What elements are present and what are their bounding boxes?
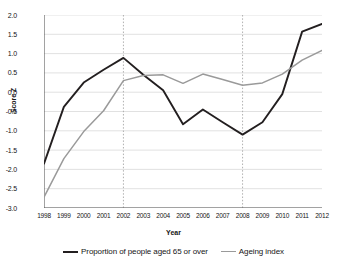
y-tick-label: 1.5 [8,31,17,38]
x-tick-label: 2006 [196,212,210,220]
legend-item-2[interactable]: Ageing index [221,247,284,256]
x-axis-tick-labels: 1998199920002001200220032004200520062007… [44,212,322,224]
plot-svg [44,15,322,208]
x-axis-title: Year [0,229,347,236]
legend-label: Ageing index [239,247,284,256]
x-tick-label: 2002 [117,212,131,220]
y-tick-label: 1.0 [8,50,17,57]
chart-legend: Proportion of people aged 65 or overAgei… [0,247,347,256]
y-tick-label: 2.0 [8,12,17,19]
x-tick-label: 2000 [77,212,91,220]
x-tick-label: 2008 [236,212,250,220]
x-tick-label: 2001 [97,212,111,220]
chart-container: 2.01.51.00.50.0-0.5-1.0-1.5-2.0-2.5-3.0 … [0,0,347,273]
x-tick-label: 2009 [256,212,270,220]
legend-label: Proportion of people aged 65 or over [81,247,208,256]
legend-swatch-icon [221,251,236,252]
x-tick-label: 2011 [296,212,309,220]
x-tick-label: 2012 [315,212,329,220]
series-line-1 [44,24,322,164]
legend-item-1[interactable]: Proportion of people aged 65 or over [63,247,208,256]
x-tick-label: 2010 [275,212,289,220]
y-tick-label: -3.0 [6,205,17,212]
y-axis-title: Score Z [10,71,17,131]
x-tick-label: 2004 [156,212,170,220]
series-lines [44,24,322,197]
grid-lines [44,15,322,208]
x-tick-label: 1999 [57,212,71,220]
x-tick-label: 1998 [37,212,51,220]
y-tick-label: -1.5 [6,147,17,154]
x-tick-label: 2007 [216,212,230,220]
legend-swatch-icon [63,251,78,253]
plot-area [44,15,322,208]
y-tick-label: -2.5 [6,185,17,192]
y-tick-label: -2.0 [6,166,17,173]
x-tick-label: 2003 [136,212,150,220]
x-tick-label: 2005 [176,212,190,220]
